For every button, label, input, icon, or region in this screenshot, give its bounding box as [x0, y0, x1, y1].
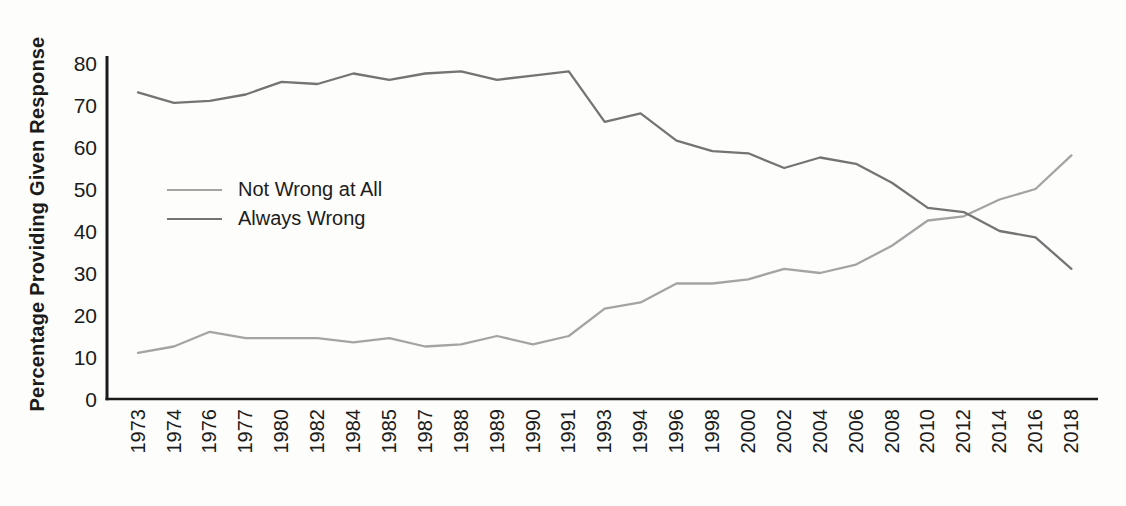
x-tick-label-1974: 1974 [163, 409, 185, 454]
legend: Not Wrong at All Always Wrong [167, 175, 382, 233]
x-tick-label-1980: 1980 [270, 409, 292, 454]
y-tick-label-70: 70 [74, 94, 97, 117]
x-tick-label-1993: 1993 [593, 409, 615, 454]
x-tick-label-1990: 1990 [522, 409, 544, 454]
x-tick-label-1985: 1985 [378, 409, 400, 454]
y-tick-label-60: 60 [74, 136, 97, 159]
x-tick-label-1982: 1982 [306, 409, 328, 454]
x-tick-label-2008: 2008 [881, 409, 903, 454]
legend-item-not-wrong-at-all: Not Wrong at All [167, 175, 382, 204]
attitudes-line-chart-figure: 0102030405060708019731974197619771980198… [0, 0, 1126, 506]
legend-line-swatch-not-wrong-at-all [167, 189, 222, 191]
x-tick-label-1977: 1977 [234, 409, 256, 454]
x-tick-label-1987: 1987 [414, 409, 436, 454]
x-tick-label-1973: 1973 [127, 409, 149, 454]
x-tick-label-1988: 1988 [450, 409, 472, 454]
x-tick-label-1996: 1996 [665, 409, 687, 454]
legend-label-not-wrong-at-all: Not Wrong at All [238, 178, 382, 201]
y-tick-label-20: 20 [74, 304, 97, 327]
y-tick-label-40: 40 [74, 220, 97, 243]
y-tick-label-10: 10 [74, 346, 97, 369]
x-tick-label-1989: 1989 [486, 409, 508, 454]
x-tick-label-1976: 1976 [198, 409, 220, 454]
x-tick-label-1998: 1998 [701, 409, 723, 454]
x-tick-label-1991: 1991 [557, 409, 579, 454]
legend-label-always-wrong: Always Wrong [238, 207, 365, 230]
x-tick-label-1984: 1984 [342, 409, 364, 454]
x-tick-label-2000: 2000 [737, 409, 759, 454]
x-tick-label-2010: 2010 [916, 409, 938, 454]
x-tick-label-2002: 2002 [773, 409, 795, 454]
y-tick-label-0: 0 [85, 388, 97, 411]
x-tick-label-2004: 2004 [809, 409, 831, 454]
x-tick-label-2012: 2012 [952, 409, 974, 454]
x-tick-label-1994: 1994 [629, 409, 651, 454]
legend-line-swatch-always-wrong [167, 218, 222, 220]
y-axis-title: Percentage Providing Given Response [26, 37, 49, 412]
y-tick-label-80: 80 [74, 52, 97, 75]
legend-item-always-wrong: Always Wrong [167, 204, 382, 233]
y-tick-label-30: 30 [74, 262, 97, 285]
y-tick-label-50: 50 [74, 178, 97, 201]
line-chart-canvas: 0102030405060708019731974197619771980198… [0, 0, 1126, 506]
x-tick-label-2006: 2006 [845, 409, 867, 454]
x-tick-label-2018: 2018 [1060, 409, 1082, 454]
series-line-always-wrong [138, 71, 1071, 268]
x-tick-label-2014: 2014 [988, 409, 1010, 454]
x-tick-label-2016: 2016 [1024, 409, 1046, 454]
